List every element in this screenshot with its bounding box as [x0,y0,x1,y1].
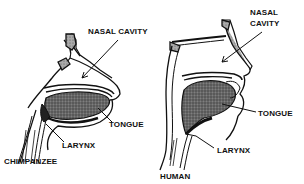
human-caption: HUMAN [160,172,190,181]
chimpanzee-caption: CHIMPANZEE [4,157,57,166]
human-larynx-label: LARYNX [217,146,250,155]
human-tongue [182,81,236,134]
human-nasal-cavity-label-line2: CAVITY [250,19,279,28]
human-tongue-label: TONGUE [258,109,293,118]
chimpanzee-larynx-label: LARYNX [62,141,95,150]
chimpanzee-tongue [45,92,110,119]
human-nasal-cavity-label-line1: NASAL [250,8,278,17]
chimpanzee-tongue-label: TONGUE [109,120,144,129]
chimpanzee-nasal-cavity-label: NASAL CAVITY [88,27,148,36]
